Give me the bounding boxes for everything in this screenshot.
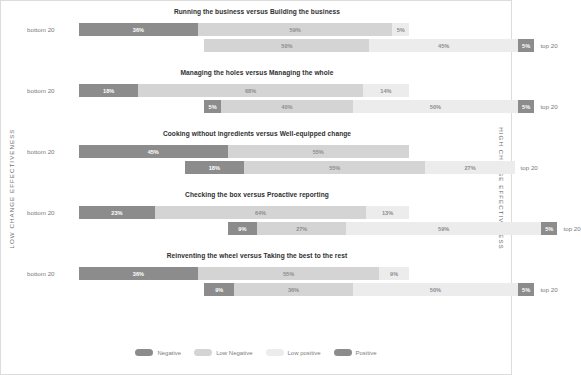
group-title: Managing the holes versus Managing the w… (19, 69, 495, 76)
bar-segment[interactable]: 18% (185, 161, 244, 174)
group-title: Cooking without ingredients versus Well-… (19, 130, 495, 137)
stacked-bar[interactable]: 9%36%50%5% (204, 283, 534, 296)
bar-segment[interactable]: 5% (204, 100, 221, 113)
row-label-top-20: top 20 (540, 103, 557, 110)
bar-segment[interactable]: 50% (353, 283, 518, 296)
bar-segment[interactable]: 9% (204, 283, 234, 296)
bar-segment[interactable]: 55% (198, 267, 380, 280)
legend-item[interactable]: Low positive (266, 349, 321, 356)
stacked-bar[interactable]: 18%68%14% (79, 84, 409, 97)
row-label-bottom-20: bottom 20 (27, 26, 55, 33)
bar-segment[interactable]: 14% (363, 84, 409, 97)
bar-segment[interactable]: 50% (204, 39, 369, 52)
chart-row: 23%64%13%bottom 20 (19, 206, 495, 219)
axis-label-low-change-effectiveness: LOW CHANGE EFFECTIVENESS (3, 1, 19, 375)
legend-swatch-icon (135, 349, 153, 356)
stacked-bar[interactable]: 36%55%9% (79, 267, 409, 280)
axis-label-high-change-effectiveness: HIGH CHANGE EFFECTIVENESS (493, 1, 509, 375)
chart-row: 9%36%50%5%top 20 (19, 283, 495, 296)
row-label-bottom-20: bottom 20 (27, 87, 55, 94)
chart-group: Checking the box versus Proactive report… (19, 184, 495, 245)
chart-row: 36%55%9%bottom 20 (19, 267, 495, 280)
bar-segment[interactable]: 5% (392, 23, 409, 36)
group-title: Reinventing the wheel versus Taking the … (19, 252, 495, 259)
axis-label-left-text: LOW CHANGE EFFECTIVENESS (8, 128, 15, 248)
row-label-bottom-20: bottom 20 (27, 270, 55, 277)
bar-segment[interactable]: 59% (198, 23, 393, 36)
bar-segment[interactable]: 45% (79, 145, 228, 158)
bar-segment[interactable]: 9% (379, 267, 409, 280)
bar-segment[interactable]: 27% (425, 161, 514, 174)
legend-item[interactable]: Low Negative (194, 349, 252, 356)
row-label-top-20: top 20 (564, 225, 581, 232)
bar-segment[interactable]: 36% (79, 23, 198, 36)
bar-segment[interactable]: 36% (234, 283, 353, 296)
bar-segment[interactable]: 68% (138, 84, 362, 97)
chart-row: 9%27%59%5%top 20 (19, 222, 495, 235)
bar-segment[interactable]: 40% (221, 100, 353, 113)
bar-segment[interactable]: 5% (518, 39, 535, 52)
bar-segment[interactable]: 55% (228, 145, 410, 158)
bar-segment[interactable]: 5% (518, 100, 535, 113)
bar-segment[interactable]: 55% (244, 161, 426, 174)
bar-segment[interactable]: 18% (79, 84, 138, 97)
bar-segment[interactable]: 9% (228, 222, 258, 235)
stacked-bar[interactable]: 23%64%13% (79, 206, 409, 219)
bar-segment[interactable]: 64% (155, 206, 366, 219)
bar-segment[interactable]: 50% (353, 100, 518, 113)
legend-item[interactable]: Positive (334, 349, 377, 356)
stacked-bar[interactable]: 36%59%5% (79, 23, 409, 36)
bar-segment[interactable]: 36% (79, 267, 198, 280)
stacked-bar[interactable]: 50%45%5% (204, 39, 534, 52)
bar-segment[interactable]: 23% (79, 206, 155, 219)
legend-swatch-icon (266, 349, 284, 356)
chart-row: 5%40%50%5%top 20 (19, 100, 495, 113)
chart-row: 45%55%bottom 20 (19, 145, 495, 158)
chart-group: Cooking without ingredients versus Well-… (19, 123, 495, 184)
legend-label: Low Negative (216, 350, 252, 356)
bar-segment[interactable]: 13% (366, 206, 409, 219)
legend-swatch-icon (194, 349, 212, 356)
chart-row: 50%45%5%top 20 (19, 39, 495, 52)
legend-swatch-icon (334, 349, 352, 356)
stacked-bar[interactable]: 9%27%59%5% (228, 222, 558, 235)
stacked-bar[interactable]: 18%55%27% (185, 161, 515, 174)
chart-row: 18%68%14%bottom 20 (19, 84, 495, 97)
legend-label: Low positive (288, 350, 321, 356)
bar-segment[interactable]: 45% (369, 39, 518, 52)
legend-label: Positive (356, 350, 377, 356)
row-label-bottom-20: bottom 20 (27, 209, 55, 216)
chart-row: 18%55%27%top 20 (19, 161, 495, 174)
stacked-bar[interactable]: 5%40%50%5% (204, 100, 534, 113)
chart-group: Reinventing the wheel versus Taking the … (19, 245, 495, 306)
legend-item[interactable]: Negative (135, 349, 181, 356)
group-title: Running the business versus Building the… (19, 8, 495, 15)
bar-segment[interactable]: 59% (346, 222, 541, 235)
bar-segment[interactable]: 5% (518, 283, 535, 296)
chart-group: Managing the holes versus Managing the w… (19, 62, 495, 123)
stacked-bar[interactable]: 45%55% (79, 145, 409, 158)
chart-legend: NegativeLow NegativeLow positivePositive (1, 349, 511, 356)
bar-segment[interactable]: 27% (257, 222, 346, 235)
row-label-top-20: top 20 (521, 164, 538, 171)
legend-label: Negative (157, 350, 181, 356)
row-label-top-20: top 20 (540, 42, 557, 49)
row-label-bottom-20: bottom 20 (27, 148, 55, 155)
row-label-top-20: top 20 (540, 286, 557, 293)
chart-plot-area: Running the business versus Building the… (19, 1, 495, 331)
bar-segment[interactable]: 5% (541, 222, 558, 235)
chart-group: Running the business versus Building the… (19, 1, 495, 62)
group-title: Checking the box versus Proactive report… (19, 191, 495, 198)
chart-row: 36%59%5%bottom 20 (19, 23, 495, 36)
